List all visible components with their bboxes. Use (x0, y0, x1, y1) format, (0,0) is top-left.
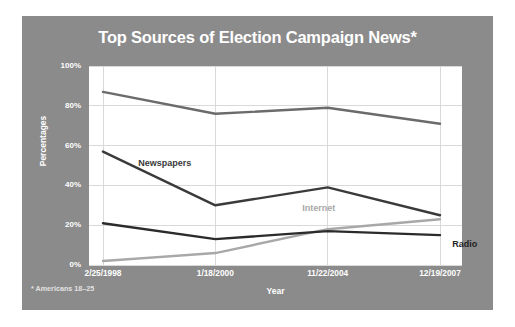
x-tick-label: 11/22/2004 (307, 268, 348, 278)
plot-area: TelevisionNewspapersInternetRadio (89, 66, 462, 265)
footnote: * Americans 18–25 (31, 284, 94, 293)
y-tick-label: 20% (39, 220, 81, 230)
series-label-television: Television (345, 84, 388, 94)
series-line-internet (103, 219, 440, 261)
chart-figure: Top Sources of Election Campaign News* P… (0, 0, 515, 327)
x-tick-label: 1/18/2000 (197, 268, 234, 278)
series-label-newspapers: Newspapers (138, 158, 191, 168)
y-axis-ticks: 100%80%60%40%20%0% (39, 66, 81, 265)
y-tick-label: 80% (39, 101, 81, 111)
x-axis-title: Year (89, 286, 462, 296)
x-tick-label: 2/25/1998 (85, 268, 122, 278)
series-line-radio (103, 223, 440, 239)
series-line-television (103, 92, 440, 124)
series-label-internet: Internet (302, 203, 335, 213)
y-tick-label: 100% (39, 61, 81, 71)
x-tick-label: 12/19/2007 (419, 268, 461, 278)
x-axis-ticks: 2/25/19981/18/200011/22/200412/19/2007 (89, 268, 462, 282)
chart-card: Top Sources of Election Campaign News* P… (22, 16, 493, 310)
y-tick-label: 40% (39, 180, 81, 190)
y-tick-label: 0% (39, 260, 81, 270)
page-title: Top Sources of Election Campaign News* (22, 28, 493, 47)
series-label-radio: Radio (452, 239, 477, 249)
y-tick-label: 60% (39, 141, 81, 151)
